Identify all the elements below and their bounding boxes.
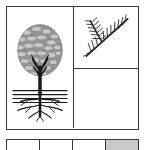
blank-panel-label: blank white panel [74, 69, 75, 70]
conifer-branch-panel: conifer branch with needles and a side b… [74, 7, 138, 69]
strip-cell-1 [7, 140, 40, 150]
lower-cell-strip [6, 139, 139, 150]
figure-root: whole tree with crown, trunk and root sy… [0, 0, 146, 150]
root-system [18, 93, 62, 122]
conifer-needles [83, 15, 126, 56]
strip-cell-4-shaded [106, 140, 138, 150]
strip-cell-3 [73, 140, 106, 150]
whole-tree-panel: whole tree with crown, trunk and root sy… [7, 7, 74, 128]
strip-cell-2 [40, 140, 73, 150]
blank-panel: blank white panel [74, 69, 138, 128]
figure-box: whole tree with crown, trunk and root sy… [6, 6, 139, 130]
conifer-branch-illustration [74, 7, 138, 68]
whole-tree-illustration [7, 7, 73, 128]
